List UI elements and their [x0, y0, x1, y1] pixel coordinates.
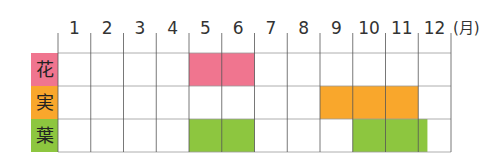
month-label: 4: [167, 18, 178, 38]
month-label: 12: [424, 18, 446, 38]
month-label: 10: [358, 18, 380, 38]
month-label: 11: [391, 18, 413, 38]
month-label: 5: [200, 18, 211, 38]
period-bar: [320, 86, 418, 119]
unit-label: (月): [453, 19, 480, 37]
month-calendar-chart: 花実葉123456789101112(月): [0, 0, 501, 165]
month-label: 6: [233, 18, 244, 38]
month-label: 3: [134, 18, 145, 38]
month-label: 2: [102, 18, 113, 38]
month-label: 7: [265, 18, 276, 38]
period-bar: [353, 119, 428, 152]
row-label: 葉: [36, 125, 54, 146]
month-label: 9: [331, 18, 342, 38]
row-label: 実: [36, 92, 54, 113]
row-label: 花: [36, 59, 54, 80]
month-label: 8: [298, 18, 309, 38]
month-label: 1: [69, 18, 80, 38]
